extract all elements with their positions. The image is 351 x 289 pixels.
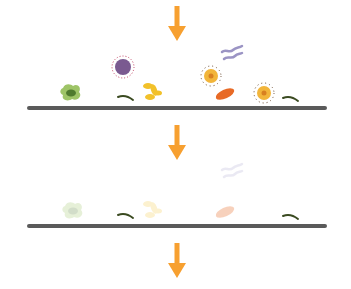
arrow-down-middle [168,125,186,161]
filament-icon [117,212,135,220]
arrow-down-bottom [168,243,186,279]
bacillus-faded-icon [214,204,236,220]
yeast-faded-icon [141,198,163,220]
filament-icon [282,95,300,103]
spirillum-faded-icon [220,162,244,180]
surface-after [27,224,327,228]
amoeba-icon [59,82,83,102]
arrow-down-top [168,6,186,42]
spirillum-icon [220,44,244,62]
amoeba-faded-icon [61,200,85,220]
bacillus-icon [214,86,236,102]
coccus-icon [200,65,222,87]
arrow-down-icon [168,6,186,42]
arrow-down-icon [168,125,186,161]
filament-icon [117,94,135,102]
filament-icon [282,213,300,221]
surface-before [27,106,327,110]
coccus-icon [253,82,275,104]
arrow-down-icon [168,243,186,279]
virus-icon [111,55,135,79]
yeast-icon [141,80,163,102]
